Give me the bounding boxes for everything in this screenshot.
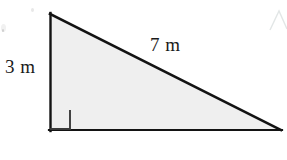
scan-speck	[31, 8, 34, 12]
scan-speck	[2, 29, 4, 32]
faint-corner-triangle-artifact	[270, 11, 287, 30]
right-triangle-figure: 3 m 7 m	[0, 0, 287, 160]
vertical-leg-length-label: 3 m	[5, 57, 36, 76]
hypotenuse-length-label: 7 m	[150, 35, 181, 54]
triangle-svg-canvas	[0, 0, 287, 160]
